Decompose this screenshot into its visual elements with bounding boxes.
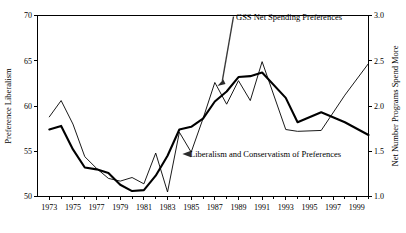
x-tick-label: 1983	[160, 203, 176, 212]
plot-border	[38, 16, 369, 197]
series-layer	[49, 62, 368, 192]
y-tick-label-left: 60	[24, 102, 32, 111]
x-tick-label: 1997	[325, 203, 341, 212]
x-tick-label: 1975	[65, 203, 81, 212]
x-tick-label: 1981	[136, 203, 152, 212]
x-tick-label: 1985	[183, 203, 199, 212]
y-tick-label-right: 2.0	[374, 102, 384, 111]
annotation-leader-gss	[222, 17, 233, 81]
y-axis-right-title: Net Number Programs Spend More	[390, 45, 400, 166]
y-tick-label-right: 3.0	[374, 11, 384, 20]
y-tick-label-left: 70	[24, 11, 32, 20]
series-line-1	[49, 73, 368, 192]
y-tick-label-left: 65	[24, 57, 32, 66]
y-tick-label-left: 55	[24, 147, 32, 156]
dual-axis-line-chart: 5055606570 1.01.52.02.53.0 1973197519771…	[0, 0, 406, 233]
x-tick-label: 1987	[207, 203, 223, 212]
y-tick-label-right: 2.5	[374, 57, 384, 66]
series-line-0	[49, 62, 368, 192]
x-tick-label: 1979	[112, 203, 128, 212]
x-tick-label: 1995	[301, 203, 317, 212]
x-tick-label: 1993	[278, 203, 294, 212]
x-tick-label: 1977	[89, 203, 105, 212]
y-axis-left-ticks: 5055606570	[24, 11, 38, 201]
annotation-label-lib: Liberalism and Conservatism of Preferenc…	[190, 149, 341, 159]
x-axis-ticks: 1973197519771979198119831985198719891991…	[41, 197, 368, 212]
annotation-layer: GSS Net Spending PreferencesLiberalism a…	[182, 12, 342, 160]
y-axis-right-ticks: 1.01.52.02.53.0	[369, 11, 385, 201]
chart-container: 5055606570 1.01.52.02.53.0 1973197519771…	[0, 0, 406, 233]
y-tick-label-left: 50	[24, 192, 32, 201]
annotation-arrowhead-gss	[217, 80, 225, 86]
y-axis-left-title: Preference Liberalism	[3, 68, 13, 144]
x-tick-label: 1973	[41, 203, 57, 212]
plot-frame	[38, 16, 369, 197]
y-tick-label-right: 1.0	[374, 192, 384, 201]
x-tick-label: 1991	[254, 203, 270, 212]
x-tick-label: 1999	[349, 203, 365, 212]
x-tick-label: 1989	[230, 203, 246, 212]
y-tick-label-right: 1.5	[374, 147, 384, 156]
annotation-label-gss: GSS Net Spending Preferences	[236, 12, 342, 22]
